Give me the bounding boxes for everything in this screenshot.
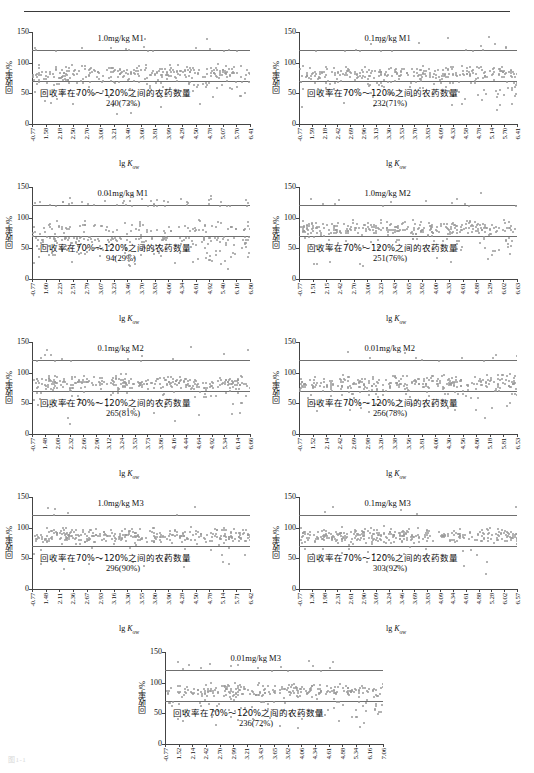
data-point <box>339 683 341 685</box>
data-point <box>247 202 249 204</box>
data-point <box>387 81 389 83</box>
data-point <box>207 688 209 690</box>
data-point <box>177 661 179 663</box>
x-tick-mark <box>274 744 275 747</box>
data-point <box>200 667 202 669</box>
data-point <box>245 246 247 248</box>
x-tick-label: 4.09 <box>437 593 445 604</box>
data-point <box>404 229 406 231</box>
data-point <box>228 547 230 549</box>
data-point <box>309 379 311 381</box>
data-point <box>504 230 506 232</box>
data-point <box>435 74 437 76</box>
x-tick-mark <box>209 124 210 127</box>
data-point <box>481 69 483 71</box>
x-tick-label: 4.34 <box>449 593 457 604</box>
data-point <box>49 226 51 228</box>
data-point <box>304 237 306 239</box>
x-tick-mark <box>463 279 464 282</box>
data-point <box>315 50 317 52</box>
y-tick-label: 150 <box>270 182 296 191</box>
x-tick-label: 3.43 <box>391 283 399 294</box>
scatter-panel-2: 050100150回收率/%0.1mg/kg M1回收率在70%～120%之间的… <box>267 14 534 169</box>
data-point <box>185 76 187 78</box>
data-point <box>84 386 86 388</box>
data-point <box>194 396 196 398</box>
data-point <box>466 67 468 69</box>
data-point <box>328 532 330 534</box>
data-point <box>372 229 374 231</box>
x-tick-label: 4.30 <box>445 438 453 449</box>
data-point <box>205 231 207 233</box>
data-point <box>491 534 493 536</box>
data-point <box>62 386 64 388</box>
y-tick-label: 0 <box>270 274 296 283</box>
data-point <box>243 229 245 231</box>
data-point <box>366 387 368 389</box>
data-point <box>40 563 42 565</box>
data-point <box>139 528 141 530</box>
x-tick-mark <box>299 124 300 127</box>
data-point <box>483 238 485 240</box>
data-point <box>203 236 205 238</box>
data-point <box>476 66 478 68</box>
data-point <box>156 199 158 201</box>
data-point <box>70 535 72 537</box>
data-point <box>378 379 380 381</box>
data-point <box>421 76 423 78</box>
data-point <box>483 360 485 362</box>
data-point <box>124 222 126 224</box>
data-point <box>392 375 394 377</box>
data-point <box>332 384 334 386</box>
data-point <box>476 539 478 541</box>
data-point <box>210 682 212 684</box>
data-point <box>222 69 224 71</box>
data-point <box>241 376 243 378</box>
data-point <box>343 223 345 225</box>
data-point <box>33 379 35 381</box>
data-point <box>426 391 428 393</box>
data-point <box>84 224 86 226</box>
data-point <box>65 527 67 529</box>
data-point <box>197 689 199 691</box>
data-point <box>56 83 58 85</box>
data-point <box>63 568 65 570</box>
data-point <box>316 232 318 234</box>
x-tick-mark <box>340 279 341 282</box>
x-tick-label: -0.77 <box>296 593 304 607</box>
data-point <box>228 49 230 51</box>
x-tick-label: 1.52 <box>309 438 317 449</box>
data-point <box>36 73 38 75</box>
y-axis-label: 回收率/% <box>4 195 18 271</box>
data-point <box>209 255 211 257</box>
data-point <box>150 200 152 202</box>
data-point <box>418 378 420 380</box>
data-point <box>182 720 184 722</box>
x-tick-mark <box>155 279 156 282</box>
data-point <box>385 536 387 538</box>
data-point <box>164 205 166 207</box>
data-point <box>88 75 90 77</box>
data-point <box>188 75 190 77</box>
data-point <box>367 83 369 85</box>
data-point <box>365 228 367 230</box>
data-point <box>415 357 417 359</box>
data-point <box>514 86 516 88</box>
data-point <box>436 230 438 232</box>
data-point <box>399 229 401 231</box>
data-point <box>40 392 42 394</box>
data-point <box>319 385 321 387</box>
data-point <box>510 225 512 227</box>
x-tick-mark <box>73 589 74 592</box>
data-point <box>511 103 513 105</box>
data-point <box>476 383 478 385</box>
data-point <box>159 539 161 541</box>
data-point <box>381 704 383 706</box>
data-point <box>88 531 90 533</box>
data-point <box>390 382 392 384</box>
data-point <box>390 533 392 535</box>
data-point <box>35 49 37 51</box>
y-tick-label: 150 <box>270 492 296 501</box>
data-point <box>328 229 330 231</box>
data-point <box>89 68 91 70</box>
